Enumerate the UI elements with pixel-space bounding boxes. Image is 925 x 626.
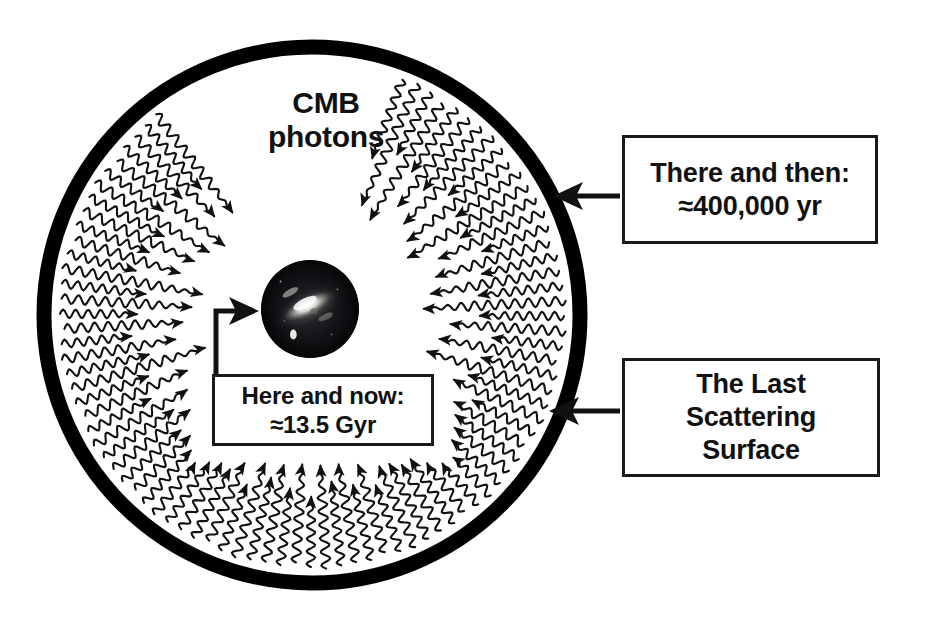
- photon-ray: [456, 173, 520, 216]
- photon-ray: [156, 114, 232, 213]
- callout-last-scattering-surface: The Last Scattering Surface: [622, 358, 880, 477]
- photon-ray: [62, 294, 192, 309]
- photon-ray: [192, 470, 230, 538]
- photon-ray: [493, 337, 562, 351]
- callout-last-scattering-line-2: Scattering: [686, 401, 816, 434]
- photon-ray: [307, 497, 315, 567]
- callout-here-and-now-line-1: Here and now:: [242, 381, 405, 410]
- callout-here-and-now-line-2: ≈13.5 Gyr: [270, 410, 376, 439]
- callout-here-and-now: Here and now: ≈13.5 Gyr: [212, 374, 434, 446]
- photon-ray: [451, 322, 566, 336]
- photon-ray: [94, 390, 187, 445]
- photon-ray: [480, 312, 564, 320]
- galaxy-thumbnail: [261, 260, 359, 358]
- photon-ray: [85, 371, 186, 416]
- photon-ray: [427, 352, 551, 395]
- photon-ray: [339, 465, 359, 562]
- photon-ray: [104, 410, 174, 457]
- photon-ray: [318, 466, 330, 569]
- photon-ray: [76, 237, 180, 273]
- callout-last-scattering-line-3: Surface: [702, 434, 800, 467]
- diagram-canvas: CMB photons: [0, 0, 925, 626]
- photon-ray: [62, 335, 132, 347]
- photon-ray: [64, 320, 182, 333]
- cmb-diagram-svg: [0, 0, 925, 626]
- photon-ray: [358, 465, 386, 552]
- callout-there-and-then: There and then: ≈400,000 yr: [622, 135, 878, 244]
- photon-ray: [424, 297, 566, 311]
- galaxy-image-svg: [261, 260, 359, 358]
- photon-ray: [62, 280, 145, 295]
- photon-ray: [135, 136, 214, 217]
- photon-ray: [277, 489, 291, 565]
- cmb-photons-label: CMB photons: [238, 86, 414, 154]
- cmb-label-line-1: CMB: [238, 86, 414, 120]
- callout-last-scattering-line-1: The Last: [696, 368, 805, 401]
- photon-ray: [60, 310, 137, 319]
- callout-there-and-then-line-2: ≈400,000 yr: [678, 190, 821, 223]
- callout-there-and-then-line-1: There and then:: [650, 157, 850, 190]
- photon-ray: [292, 465, 305, 563]
- cmb-label-line-2: photons: [238, 120, 414, 154]
